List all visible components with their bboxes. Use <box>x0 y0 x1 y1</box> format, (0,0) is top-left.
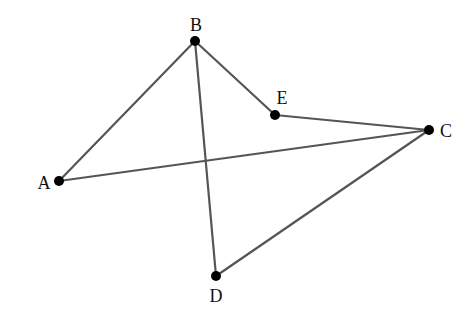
point-a <box>54 176 64 186</box>
point-label-a: A <box>38 173 51 193</box>
segment-dc <box>216 130 429 276</box>
point-label-e: E <box>277 88 288 108</box>
point-label-c: C <box>440 121 452 141</box>
point-d <box>211 271 221 281</box>
segment-be <box>195 41 275 115</box>
segment-ec <box>275 115 429 130</box>
point-b <box>190 36 200 46</box>
labels-group: ABCDE <box>38 15 453 306</box>
point-label-b: B <box>190 15 202 35</box>
point-label-d: D <box>210 286 223 306</box>
segment-ab <box>59 41 195 181</box>
point-c <box>424 125 434 135</box>
point-e <box>270 110 280 120</box>
points-group <box>54 36 434 281</box>
geometry-figure: ABCDE <box>0 0 476 320</box>
segment-bd <box>195 41 216 276</box>
edges-group <box>59 41 429 276</box>
segment-ac <box>59 130 429 181</box>
